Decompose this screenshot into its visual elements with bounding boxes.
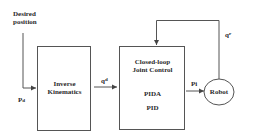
pida-option: PIDA [120, 90, 185, 98]
joint-control-line1: Closed-loop [120, 58, 185, 66]
desired-position-label: Desired position [13, 10, 37, 26]
desired-position-line1: Desired [13, 10, 37, 18]
inverse-kinematics-line1: Inverse [38, 80, 91, 88]
input-pd-line [23, 33, 36, 88]
pi-signal-label: Pi [191, 80, 197, 88]
pd-signal-label: Pd [18, 96, 25, 104]
joint-control-label: Closed-loop Joint Control [120, 58, 185, 74]
qd-signal-label: qd [101, 77, 108, 85]
pid-option: PID [120, 104, 185, 112]
qd-superscript: d [105, 77, 108, 82]
desired-position-line2: position [13, 18, 37, 26]
inverse-kinematics-label: Inverse Kinematics [38, 80, 91, 96]
qr-signal-label: qr [225, 31, 231, 39]
inverse-kinematics-line2: Kinematics [38, 88, 91, 96]
pd-subscript: d [22, 98, 25, 103]
joint-control-line2: Joint Control [120, 66, 185, 74]
robot-label: Robot [204, 88, 234, 96]
qr-superscript: r [229, 31, 231, 36]
